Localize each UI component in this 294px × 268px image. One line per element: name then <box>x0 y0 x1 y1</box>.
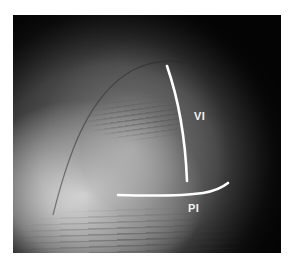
dome-contour <box>53 61 183 215</box>
pi-label: PI <box>188 203 199 214</box>
annotation-lines <box>13 15 281 253</box>
anatomical-photo: VI PI <box>13 15 281 253</box>
pi-line <box>118 183 228 196</box>
vi-label: VI <box>194 111 205 122</box>
vi-line <box>167 66 187 181</box>
